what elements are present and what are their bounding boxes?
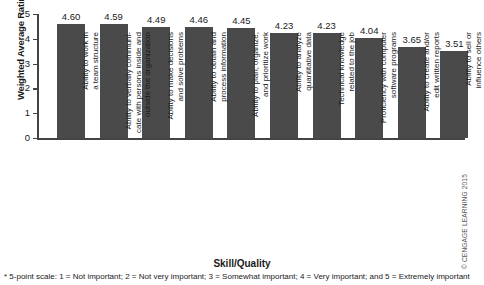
bar-chart-figure: Weighted Average Rating* 012345 4.604.59… — [0, 0, 484, 285]
y-axis-tick-label: 4 — [15, 34, 30, 44]
y-axis-tick — [33, 113, 38, 114]
x-axis-category-label: Proficiency with computer software progr… — [379, 32, 398, 142]
bar-value-label: 4.49 — [135, 15, 177, 25]
chart-footnote: * 5-point scale: 1 = Not important; 2 = … — [4, 272, 480, 282]
y-axis-tick — [33, 39, 38, 40]
bar-value-label: 4.46 — [178, 15, 220, 25]
x-axis-category-label: Ability to verbally communi- cate with p… — [124, 32, 153, 142]
y-axis-tick — [33, 88, 38, 89]
x-axis-category-label: Ability to plan, organize, and prioritiz… — [251, 32, 270, 142]
y-axis-line — [37, 14, 39, 139]
x-axis-category-label: Ability to sell or influence others — [464, 32, 483, 142]
bar-value-label: 4.23 — [306, 21, 348, 31]
y-axis-tick-label: 0 — [15, 133, 30, 143]
y-axis-tick — [33, 64, 38, 65]
y-axis-tick — [33, 14, 38, 15]
bar-value-label: 4.60 — [50, 12, 92, 22]
bar-value-label: 4.45 — [220, 16, 262, 26]
y-axis-tick-label: 3 — [15, 59, 30, 69]
x-axis-category-label: Ability to create and/or edit written re… — [422, 32, 441, 142]
x-axis-category-label: Ability to obtain and process informatio… — [209, 32, 228, 142]
copyright-notice: © CENGAGE LEARNING 2015 — [461, 169, 468, 274]
y-axis-tick-label: 2 — [15, 83, 30, 93]
y-axis-tick-label: 1 — [15, 108, 30, 118]
x-axis-category-label: Ability to analyze quantitative data — [294, 32, 313, 142]
y-axis-tick — [33, 138, 38, 139]
x-axis-title: Skill/Quality — [0, 258, 484, 269]
y-axis-tick-label: 5 — [15, 9, 30, 19]
x-axis-category-label: Technical knowledge related to the job — [337, 32, 356, 142]
x-axis-category-label: Ability to work in a team structure — [81, 32, 100, 142]
bar-value-label: 4.23 — [263, 21, 305, 31]
x-axis-category-label: Ability to make decisions and solve prob… — [166, 32, 185, 142]
bar-value-label: 4.59 — [93, 12, 135, 22]
